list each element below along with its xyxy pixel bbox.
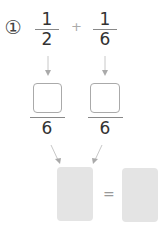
converted-1-numerator-input[interactable] <box>33 83 62 113</box>
converted-1-denominator: 6 <box>35 120 59 137</box>
converted-2-denominator: 6 <box>93 120 117 137</box>
simplified-answer-box[interactable] <box>122 168 158 222</box>
equals-sign: = <box>103 187 115 201</box>
converted-2-numerator-input[interactable] <box>90 83 120 113</box>
sum-answer-box[interactable] <box>57 167 93 221</box>
